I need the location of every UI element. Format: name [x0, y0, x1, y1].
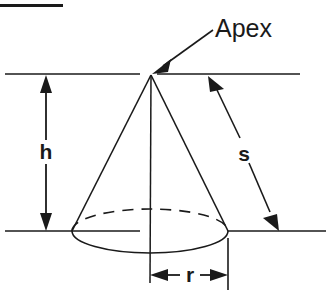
slant-arrowhead-lower-icon	[263, 214, 279, 231]
radius-arrowhead-right-icon	[210, 269, 228, 281]
height-arrowhead-up-icon	[40, 75, 52, 93]
cone-axis-line	[150, 75, 151, 283]
apex-arrowhead-icon	[152, 59, 171, 74]
cone-left-edge	[72, 75, 151, 231]
cone-diagram: Apex h s r	[0, 0, 332, 299]
apex-label: Apex	[215, 14, 272, 42]
cone-diagram-canvas: Apex h s r	[0, 0, 332, 299]
slant-arrow-shaft-upper	[217, 90, 240, 138]
height-label: h	[40, 140, 53, 163]
slant-label: s	[238, 142, 250, 165]
slant-arrow-shaft-lower	[249, 163, 270, 212]
radius-label: r	[186, 263, 194, 286]
cone-right-edge	[151, 75, 228, 231]
slant-arrowhead-upper-icon	[208, 76, 224, 92]
radius-arrowhead-left-icon	[150, 269, 168, 281]
height-arrowhead-down-icon	[40, 213, 52, 231]
